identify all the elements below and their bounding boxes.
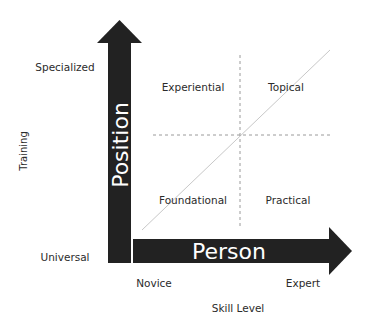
y-axis-top-label: Specialized — [35, 61, 94, 73]
person-arrow-label: Person — [192, 239, 266, 264]
quadrant-bottom-left-label: Foundational — [159, 194, 227, 206]
training-matrix-diagram: Position Person Specialized Universal Tr… — [0, 0, 369, 329]
position-arrow-label: Position — [108, 102, 133, 188]
x-axis-right-label: Expert — [286, 277, 320, 289]
x-axis-left-label: Novice — [136, 277, 172, 289]
quadrant-bottom-right-label: Practical — [266, 194, 311, 206]
quadrant-top-right-label: Topical — [268, 81, 304, 93]
x-axis-title: Skill Level — [212, 302, 265, 314]
quadrant-top-left-label: Experiential — [162, 81, 225, 93]
y-axis-title: Training — [18, 131, 29, 170]
y-axis-bottom-label: Universal — [40, 251, 89, 263]
